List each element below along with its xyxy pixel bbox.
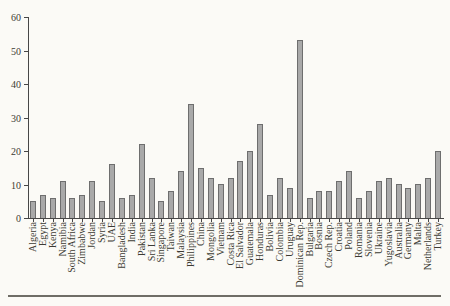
bar — [168, 191, 174, 218]
y-axis-tick — [24, 84, 28, 85]
bar — [316, 191, 322, 218]
y-axis-tick-label: 60 — [0, 12, 21, 23]
bar — [326, 191, 332, 218]
bar — [287, 188, 293, 218]
bar — [208, 178, 214, 218]
bar — [247, 151, 253, 218]
bar — [198, 168, 204, 218]
bar — [30, 201, 36, 218]
page-bottom-rule — [8, 295, 441, 297]
y-axis — [28, 17, 29, 219]
y-axis-tick — [24, 17, 28, 18]
bar — [366, 191, 372, 218]
bar — [376, 181, 382, 218]
bar — [336, 181, 342, 218]
bar — [237, 161, 243, 218]
bar — [297, 40, 303, 218]
bar — [129, 195, 135, 218]
bar — [277, 178, 283, 218]
bar-chart: 0102030405060AlgeriaEgyptKenyaNamibiaSou… — [0, 0, 450, 306]
y-axis-tick-label: 20 — [0, 146, 21, 157]
bar — [405, 188, 411, 218]
y-axis-tick — [24, 118, 28, 119]
bar — [158, 201, 164, 218]
y-axis-tick — [24, 218, 28, 219]
y-axis-tick-label: 50 — [0, 46, 21, 57]
y-axis-tick — [24, 151, 28, 152]
bar — [79, 195, 85, 218]
y-axis-tick-label: 30 — [0, 113, 21, 124]
bar — [99, 201, 105, 218]
bar — [435, 151, 441, 218]
bar — [356, 198, 362, 218]
bar — [109, 164, 115, 218]
figure: 0102030405060AlgeriaEgyptKenyaNamibiaSou… — [0, 0, 450, 306]
bar — [50, 198, 56, 218]
bar — [267, 195, 273, 218]
y-axis-tick — [24, 51, 28, 52]
bar — [425, 178, 431, 218]
bar — [218, 184, 224, 218]
bar — [346, 171, 352, 218]
category-label: Turkey — [433, 222, 443, 251]
y-axis-tick-label: 0 — [0, 213, 21, 224]
bar — [40, 195, 46, 218]
bar — [89, 181, 95, 218]
y-axis-tick — [24, 185, 28, 186]
bar — [139, 144, 145, 218]
bar — [386, 178, 392, 218]
bar — [257, 124, 263, 218]
bar — [415, 184, 421, 218]
bar — [60, 181, 66, 218]
bar — [228, 178, 234, 218]
bar — [307, 198, 313, 218]
bar — [396, 184, 402, 218]
x-axis — [28, 218, 444, 219]
bar — [149, 178, 155, 218]
y-axis-tick-label: 40 — [0, 79, 21, 90]
bar — [69, 198, 75, 218]
bar — [188, 104, 194, 218]
y-axis-tick-label: 10 — [0, 180, 21, 191]
bar — [178, 171, 184, 218]
bar — [119, 198, 125, 218]
